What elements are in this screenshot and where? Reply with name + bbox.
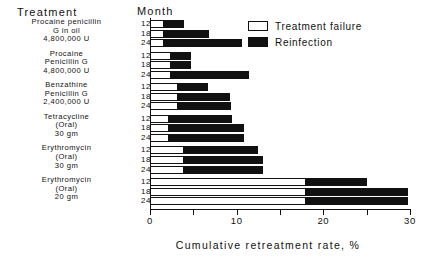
treatment-label-line: 4,800,000 U <box>0 35 133 44</box>
treatment-label-group: Erythromycin(Oral)30 gm <box>0 144 133 170</box>
bar-segment-reinfection <box>178 93 230 101</box>
bar-segment-treatment-failure <box>150 30 164 38</box>
bar-segment-treatment-failure <box>150 146 184 154</box>
bar-segment-reinfection <box>169 134 244 142</box>
bar-segment-treatment-failure <box>150 20 164 28</box>
x-axis-tick <box>280 210 281 215</box>
bar-row <box>150 166 263 174</box>
bar-row <box>150 102 231 110</box>
bar-row <box>150 134 244 142</box>
bar-segment-reinfection <box>184 166 263 174</box>
bar-row <box>150 178 367 186</box>
bar-segment-treatment-failure <box>150 156 184 164</box>
bar-segment-treatment-failure <box>150 124 169 132</box>
treatment-label-line: 30 gm <box>0 130 133 139</box>
bar-segment-reinfection <box>169 115 232 123</box>
bar-segment-treatment-failure <box>150 134 169 142</box>
bar-segment-reinfection <box>184 146 259 154</box>
x-axis-tick-label: 20 <box>310 215 336 226</box>
bar-row <box>150 20 184 28</box>
treatment-label-group: ProcainePenicillin G4,800,000 U <box>0 50 133 76</box>
bar-row <box>150 71 249 79</box>
bar-segment-reinfection <box>164 30 209 38</box>
bar-segment-reinfection <box>169 124 244 132</box>
bar-segment-treatment-failure <box>150 115 169 123</box>
legend-item-treatment-failure: Treatment failure <box>248 19 362 33</box>
bar-segment-treatment-failure <box>150 178 306 186</box>
bar-row <box>150 93 230 101</box>
bar-segment-reinfection <box>306 188 408 196</box>
x-axis-tick <box>367 210 368 215</box>
bar-segment-treatment-failure <box>150 61 171 69</box>
treatment-label-group: Tetracycline(Oral)30 gm <box>0 113 133 139</box>
legend-label: Treatment failure <box>275 21 362 32</box>
treatment-label-line: 2,400,000 U <box>0 98 133 107</box>
legend-item-reinfection: Reinfection <box>248 35 362 49</box>
bar-segment-treatment-failure <box>150 188 306 196</box>
treatment-label-line: 4,800,000 U <box>0 67 133 76</box>
bar-segment-treatment-failure <box>150 102 178 110</box>
bar-segment-reinfection <box>164 39 242 47</box>
bar-segment-reinfection <box>306 197 408 205</box>
bar-row <box>150 61 191 69</box>
bar-row <box>150 188 408 196</box>
bar-segment-reinfection <box>171 61 191 69</box>
legend-swatch-hollow-icon <box>248 21 268 31</box>
bar-row <box>150 83 208 91</box>
bar-segment-reinfection <box>164 20 184 28</box>
bar-segment-reinfection <box>171 52 191 60</box>
bar-segment-treatment-failure <box>150 39 164 47</box>
bar-row <box>150 52 191 60</box>
x-axis-tick <box>193 210 194 215</box>
treatment-label-group: Procaine penicillinG in oil4,800,000 U <box>0 18 133 44</box>
x-axis-tick-label: 0 <box>137 215 163 226</box>
legend-label: Reinfection <box>275 37 333 48</box>
bar-row <box>150 30 209 38</box>
x-axis-tick-label: 10 <box>224 215 250 226</box>
bar-segment-treatment-failure <box>150 197 306 205</box>
bar-segment-treatment-failure <box>150 166 184 174</box>
bar-segment-reinfection <box>178 83 208 91</box>
bar-segment-treatment-failure <box>150 93 178 101</box>
bar-row <box>150 156 263 164</box>
bar-chart-figure: Treatment Month Procaine penicillinG in … <box>0 0 425 270</box>
legend-swatch-filled-icon <box>248 37 268 47</box>
bar-segment-reinfection <box>306 178 367 186</box>
treatment-label-line: 30 gm <box>0 162 133 171</box>
bar-segment-reinfection <box>184 156 263 164</box>
bar-segment-reinfection <box>171 71 249 79</box>
month-column-header: Month <box>137 5 174 17</box>
bar-segment-treatment-failure <box>150 83 178 91</box>
bar-row <box>150 197 408 205</box>
bar-segment-treatment-failure <box>150 52 171 60</box>
bar-row <box>150 39 242 47</box>
x-axis-label: Cumulative retreatment rate, % <box>118 239 418 251</box>
x-axis-tick-label: 30 <box>397 215 423 226</box>
bar-row <box>150 124 244 132</box>
bar-segment-reinfection <box>178 102 231 110</box>
bar-segment-treatment-failure <box>150 71 171 79</box>
bar-row <box>150 115 232 123</box>
treatment-label-line: 20 gm <box>0 193 133 202</box>
bar-row <box>150 146 258 154</box>
treatment-label-group: BenzathinePenicillin G2,400,000 U <box>0 81 133 107</box>
treatment-label-group: Erythromycin(Oral)20 gm <box>0 176 133 202</box>
chart-legend: Treatment failure Reinfection <box>248 19 362 51</box>
